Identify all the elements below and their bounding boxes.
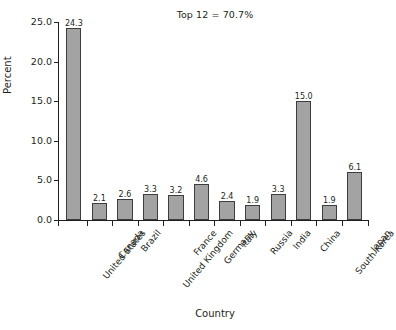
bar: 15.0 [296,101,311,220]
bar-value-label: 1.9 [323,196,336,205]
x-tick-mark [58,221,59,226]
y-axis-label: Percent [2,56,13,94]
x-tick-label: China [318,228,342,254]
bar: 24.3 [66,28,81,220]
y-tick-label: 15.0 [31,95,52,106]
bar-value-label: 2.6 [119,190,132,199]
x-tick-mark [163,221,164,226]
bar: 3.3 [143,194,158,220]
bar: 2.1 [92,203,107,220]
bar-value-label: 4.6 [195,175,208,184]
y-tick-mark [54,141,59,142]
y-tick-mark [54,62,59,63]
x-tick-mark [112,221,113,226]
y-tick-label: 10.0 [31,135,52,146]
x-tick-label: Russia [268,228,294,257]
bar-value-label: 6.1 [348,163,361,172]
bar: 2.4 [219,201,234,220]
bar: 1.9 [245,205,260,220]
bar: 2.6 [117,199,132,220]
x-tick-mark [189,221,190,226]
x-tick-mark [342,221,343,226]
x-tick-label: India [291,228,313,251]
bar: 4.6 [194,184,209,220]
x-tick-mark [368,221,369,226]
plot-area: 0.05.010.015.020.025.0 24.32.12.63.33.24… [58,22,376,220]
y-tick-label: 25.0 [31,16,52,27]
x-tick-mark [87,221,88,226]
y-tick-mark [54,22,59,23]
y-axis-line [58,22,59,221]
y-tick-label: 5.0 [37,174,52,185]
bar-value-label: 24.3 [65,19,83,28]
bar-value-label: 1.9 [246,196,259,205]
x-axis-label: Country [0,308,382,319]
y-tick-label: 20.0 [31,56,52,67]
bar-value-label: 15.0 [295,92,313,101]
x-tick-mark [240,221,241,226]
x-tick-mark [316,221,317,226]
bar-value-label: 2.1 [93,194,106,203]
x-tick-mark [214,221,215,226]
bar: 1.9 [322,205,337,220]
bar-value-label: 3.2 [170,186,183,195]
y-tick-mark [54,101,59,102]
bar: 3.3 [271,194,286,220]
bar: 3.2 [168,195,183,220]
x-tick-label: Italy [239,228,259,249]
cut-off-title [0,0,382,7]
x-tick-mark [265,221,266,226]
bar: 6.1 [347,172,362,220]
chart-annotation: Top 12 = 70.7% [0,9,382,20]
x-tick-mark [291,221,292,226]
bar-value-label: 3.3 [272,185,285,194]
x-tick-mark [138,221,139,226]
y-tick-mark [54,180,59,181]
y-tick-label: 0.0 [37,214,52,225]
bar-value-label: 2.4 [221,192,234,201]
bar-value-label: 3.3 [144,185,157,194]
x-axis-line [58,220,369,221]
